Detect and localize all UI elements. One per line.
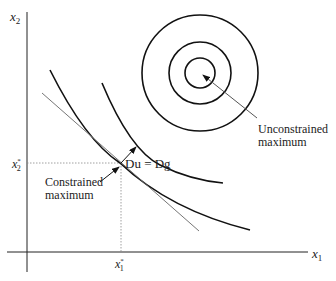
- tangent-line: [42, 93, 199, 231]
- level-set-middle: [169, 42, 231, 104]
- x-axis-label: x1: [311, 246, 322, 263]
- level-curve-constraint: [50, 70, 250, 230]
- unconstrained-max-label-line2: maximum: [258, 135, 307, 149]
- x1-star-label: x*1: [114, 257, 124, 273]
- constrained-max-label-line2: maximum: [45, 188, 94, 202]
- level-set-outer: [142, 15, 258, 131]
- gradient-condition-label: Du = Dg: [125, 156, 171, 171]
- level-set-inner: [185, 58, 215, 88]
- constrained-max-label-line1: Constrained: [45, 175, 103, 189]
- constrained-optimization-diagram: x2 x1 x*2 x*1 Du = Dg Constrained maximu…: [0, 0, 336, 281]
- unconstrained-max-label-line1: Unconstrained: [258, 122, 328, 136]
- x2-star-label: x*2: [11, 157, 21, 173]
- y-axis-label: x2: [9, 9, 20, 26]
